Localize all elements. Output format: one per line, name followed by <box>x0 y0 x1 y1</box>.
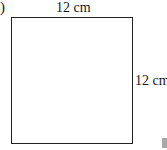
square-shape <box>11 17 133 144</box>
right-side-length-label: 12 cm <box>135 74 167 88</box>
figure-label-fragment: ) <box>0 0 5 15</box>
top-side-length-label: 12 cm <box>56 1 91 15</box>
corner-gray-mark <box>162 138 167 148</box>
